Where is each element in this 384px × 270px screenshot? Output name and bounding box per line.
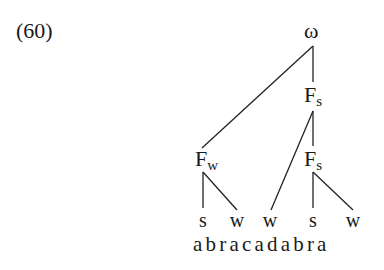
node-label: F xyxy=(304,146,316,171)
branch-fs-w2 xyxy=(313,172,353,210)
tree-branches xyxy=(0,0,384,270)
root-label: ω xyxy=(304,18,318,43)
node-subscript: s xyxy=(316,93,322,109)
foot-strong-upper-node: Fs xyxy=(304,84,322,112)
foot-strong-lower-node: Fs xyxy=(304,148,322,176)
leaf-syllable-4: s xyxy=(309,210,317,230)
branch-root-fw xyxy=(202,46,313,148)
leaf-syllable-2: w xyxy=(230,210,244,230)
root-node-omega: ω xyxy=(304,20,318,42)
word-text: abracadabra xyxy=(193,232,330,256)
branch-fw-w xyxy=(203,172,237,210)
node-label: F xyxy=(195,146,207,171)
leaf-syllable-3: w xyxy=(263,210,277,230)
node-subscript: s xyxy=(316,157,322,173)
foot-weak-node: Fw xyxy=(195,148,218,176)
node-subscript: w xyxy=(207,157,218,173)
node-label: F xyxy=(304,82,316,107)
leaf-syllable-5: w xyxy=(346,210,360,230)
leaf-syllable-1: s xyxy=(199,210,207,230)
